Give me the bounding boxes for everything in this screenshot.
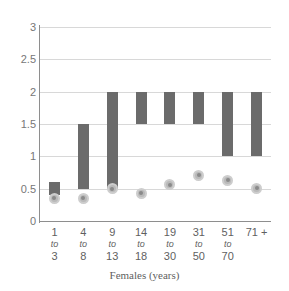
y-tick-label: 2: [10, 87, 36, 98]
x-axis-title: Females (years): [0, 269, 289, 281]
x-tick-label: 71 +: [240, 226, 274, 239]
gridline: [40, 92, 271, 93]
y-tick-label: 0: [10, 216, 36, 227]
chart-container: 00.511.522.53 1to34to89to1314to1819to303…: [0, 0, 289, 291]
range-bar: [78, 124, 89, 189]
gridline: [40, 59, 271, 60]
gridline: [40, 156, 271, 157]
range-bar: [251, 92, 262, 157]
x-axis-line: [39, 221, 271, 222]
gridline: [40, 27, 271, 28]
range-bar: [164, 92, 175, 124]
range-bar: [136, 92, 147, 124]
y-tick-label: 3: [10, 22, 36, 33]
x-tick-range-start: 71 +: [240, 226, 274, 239]
data-point-marker: [136, 188, 147, 199]
range-bar: [222, 92, 233, 157]
y-axis-tick-labels: 00.511.522.53: [4, 0, 36, 291]
data-point-marker: [107, 183, 118, 194]
data-point-marker: [78, 193, 89, 204]
y-tick-label: 0.5: [10, 184, 36, 195]
x-axis-tick-labels: 1to34to89to1314to1819to3031to5051to7071 …: [40, 226, 271, 272]
y-tick-label: 2.5: [10, 54, 36, 65]
data-point-marker: [251, 183, 262, 194]
x-tick-range-connector: to: [211, 239, 245, 250]
data-point-marker: [222, 175, 233, 186]
y-tick-label: 1: [10, 151, 36, 162]
plot-area: [40, 27, 271, 221]
gridline: [40, 124, 271, 125]
x-tick-range-end: 70: [211, 250, 245, 263]
data-point-marker: [193, 170, 204, 181]
gridline: [40, 189, 271, 190]
data-point-marker: [49, 193, 60, 204]
range-bar: [193, 92, 204, 124]
y-tick-label: 1.5: [10, 119, 36, 130]
range-bar: [107, 92, 118, 189]
